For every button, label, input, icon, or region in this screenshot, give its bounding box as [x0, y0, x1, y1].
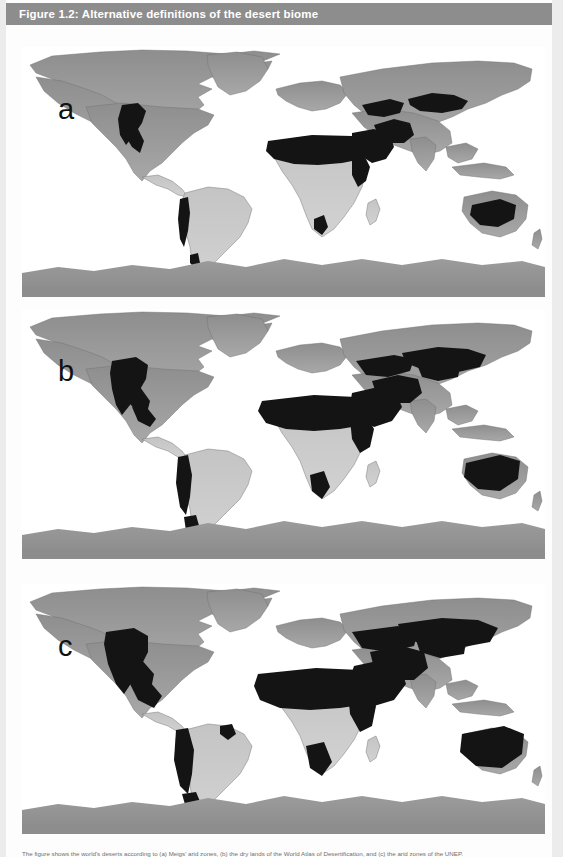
page-background: Figure 1.2: Alternative definitions of t…: [0, 0, 563, 857]
map-panel-a: a: [22, 47, 545, 297]
figure-caption-text: The figure shows the world's deserts acc…: [22, 850, 545, 857]
map-panel-c: c: [22, 584, 545, 834]
figure-title-bar: Figure 1.2: Alternative definitions of t…: [6, 3, 552, 25]
world-map-b: [22, 309, 545, 559]
world-map-a: [22, 47, 545, 297]
figure-caption: The figure shows the world's deserts acc…: [22, 849, 545, 857]
map-panel-b: b: [22, 309, 545, 559]
figure-title: Figure 1.2: Alternative definitions of t…: [6, 8, 318, 20]
world-map-c: [22, 584, 545, 834]
